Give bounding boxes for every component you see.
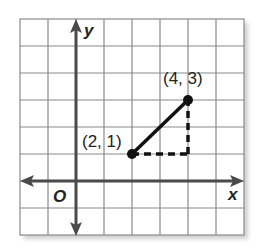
point-2-1 xyxy=(127,149,137,159)
point-label-2-1: (2, 1) xyxy=(82,132,122,151)
point-label-4-3: (4, 3) xyxy=(163,69,203,88)
coordinate-plane: (2, 1) (4, 3) y x O xyxy=(0,0,261,248)
y-axis-label: y xyxy=(83,21,95,40)
point-4-3 xyxy=(183,95,193,105)
x-axis-label: x xyxy=(227,185,239,204)
origin-label: O xyxy=(53,187,66,206)
